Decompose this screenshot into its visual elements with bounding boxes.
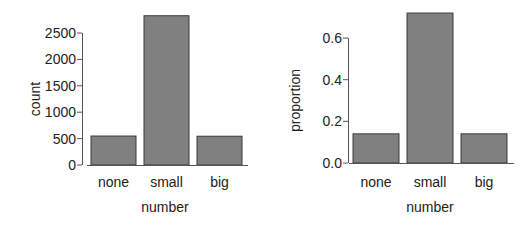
count-bar-chart: 05001000150020002500nonesmallbignumberco… (0, 0, 262, 227)
y-axis-title: count (27, 82, 43, 116)
y-tick-label: 2500 (45, 25, 76, 41)
x-tick-label: big (210, 174, 229, 190)
y-tick-label: 0.4 (323, 72, 343, 88)
proportion-bar-chart: 0.00.20.40.6nonesmallbignumberproportion (262, 0, 524, 227)
x-axis-title: number (406, 199, 454, 215)
y-tick-label: 500 (53, 131, 77, 147)
proportion-chart-svg: 0.00.20.40.6nonesmallbignumberproportion (262, 0, 525, 227)
x-tick-label: none (360, 174, 391, 190)
x-tick-label: small (414, 174, 447, 190)
y-tick-label: 0 (68, 157, 76, 173)
x-tick-label: small (150, 174, 183, 190)
bar-none (91, 136, 136, 165)
y-tick-label: 2000 (45, 51, 76, 67)
count-chart-svg: 05001000150020002500nonesmallbignumberco… (0, 0, 262, 227)
y-axis-title: proportion (287, 69, 303, 132)
bar-big (461, 134, 507, 163)
y-tick-label: 1000 (45, 104, 76, 120)
x-tick-label: big (475, 174, 494, 190)
x-tick-label: none (98, 174, 129, 190)
bar-none (353, 134, 399, 163)
y-tick-label: 0.2 (323, 113, 343, 129)
bar-big (197, 136, 242, 165)
y-tick-label: 1500 (45, 78, 76, 94)
bar-small (144, 16, 189, 165)
bar-small (407, 13, 453, 163)
y-tick-label: 0.0 (323, 155, 343, 171)
x-axis-title: number (141, 199, 189, 215)
y-tick-label: 0.6 (323, 30, 343, 46)
